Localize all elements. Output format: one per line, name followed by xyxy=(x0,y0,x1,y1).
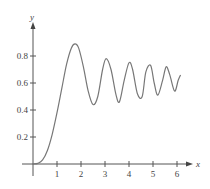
y-axis: y xyxy=(29,12,36,176)
y-tick-label: 0.2 xyxy=(17,132,28,142)
data-curve xyxy=(33,44,181,164)
x-tick-label: 5 xyxy=(151,169,156,179)
y-tick-label: 0.4 xyxy=(17,105,29,115)
y-tick-label: 0.6 xyxy=(17,78,29,88)
x-axis: x xyxy=(22,159,200,169)
x-tick-label: 2 xyxy=(79,169,84,179)
chart: x y 123456 0.20.40.60.8 xyxy=(0,0,210,189)
y-axis-label: y xyxy=(29,12,34,22)
x-axis-arrow-icon xyxy=(186,162,193,167)
y-axis-arrow-icon xyxy=(31,22,36,29)
x-tick-label: 4 xyxy=(127,169,132,179)
x-tick-label: 6 xyxy=(175,169,180,179)
x-axis-label: x xyxy=(195,159,200,169)
x-tick-label: 3 xyxy=(103,169,108,179)
y-tick-label: 0.8 xyxy=(17,51,29,61)
x-tick-label: 1 xyxy=(55,169,60,179)
